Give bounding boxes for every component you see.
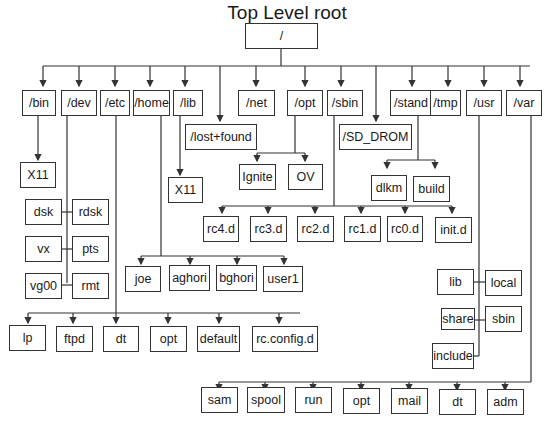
node-sam: sam — [201, 387, 238, 413]
node-bin: /bin — [22, 90, 56, 116]
node-vg00: vg00 — [25, 273, 62, 299]
node-usr-sbin: sbin — [485, 306, 522, 332]
node-opt: /opt — [287, 90, 323, 116]
node-run: run — [295, 387, 332, 413]
node-rdsk: rdsk — [72, 199, 109, 225]
node-ignite: Ignite — [239, 164, 276, 190]
node-lost-found: /lost+found — [185, 124, 257, 150]
node-build: build — [413, 176, 450, 202]
node-pts: pts — [72, 236, 109, 262]
node-lp: lp — [9, 325, 46, 351]
node-rc3d: rc3.d — [250, 216, 287, 242]
node-home: /home — [133, 90, 170, 116]
node-lib: /lib — [173, 90, 203, 116]
node-usr-include: include — [432, 343, 474, 369]
node-dev: /dev — [61, 90, 97, 116]
node-var: /var — [506, 90, 542, 116]
node-rc2d: rc2.d — [297, 216, 334, 242]
node-bin-x11: X11 — [20, 162, 56, 188]
node-mail: mail — [391, 388, 428, 414]
node-ov: OV — [288, 164, 323, 190]
node-usr-lib: lib — [437, 269, 474, 295]
node-sd-drom: /SD_DROM — [339, 124, 412, 150]
node-stand: /stand — [390, 90, 432, 116]
node-bghori: bghori — [216, 265, 257, 291]
node-root: / — [245, 23, 318, 49]
node-etc-opt: opt — [150, 326, 187, 352]
node-rmt: rmt — [72, 273, 109, 299]
filesystem-tree-diagram: Top Level root — [0, 0, 550, 426]
node-rc1d: rc1.d — [344, 216, 381, 242]
node-dlkm: dlkm — [371, 175, 407, 201]
node-vx: vx — [25, 236, 62, 262]
node-var-opt: opt — [343, 388, 380, 414]
node-etc: /etc — [100, 90, 130, 116]
node-net: /net — [238, 90, 275, 116]
node-default: default — [197, 326, 240, 352]
node-initd: init.d — [435, 217, 472, 243]
node-adm: adm — [487, 389, 524, 415]
node-spool: spool — [247, 387, 285, 413]
node-lib-x11: X11 — [168, 177, 203, 203]
node-rc-config-d: rc.config.d — [252, 326, 318, 352]
node-aghori: aghori — [169, 265, 210, 291]
node-dt: dt — [103, 326, 139, 352]
node-joe: joe — [125, 266, 161, 292]
node-ftpd: ftpd — [56, 326, 93, 352]
node-rc4d: rc4.d — [203, 216, 239, 242]
node-usr-share: share — [441, 308, 475, 330]
node-rc0d: rc0.d — [387, 216, 423, 242]
node-usr: /usr — [466, 90, 502, 116]
node-sbin: /sbin — [327, 90, 363, 116]
node-var-dt: dt — [439, 389, 476, 415]
node-dsk: dsk — [25, 199, 62, 225]
node-tmp: /tmp — [430, 90, 461, 116]
node-usr-local: local — [485, 270, 522, 296]
node-user1: user1 — [263, 266, 303, 292]
